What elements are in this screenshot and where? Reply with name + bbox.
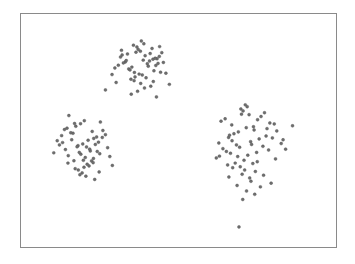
scatter-points-layer [21,14,336,247]
data-point [52,151,55,154]
data-point [284,148,287,151]
data-point [91,130,94,133]
data-point [291,124,294,127]
data-point [111,73,114,76]
data-point [152,69,155,72]
data-point [243,169,246,172]
data-point [246,105,249,108]
data-point [81,143,84,146]
data-point [92,161,95,164]
plot-frame [20,13,337,248]
data-point [76,145,79,148]
data-point [83,166,86,169]
data-point [72,159,75,162]
data-point [69,131,72,134]
data-point [268,122,271,125]
data-point [237,225,240,228]
data-point [259,185,262,188]
data-point [65,127,68,130]
data-point [136,90,139,93]
data-point [231,139,234,142]
data-point [245,126,248,129]
data-point [104,133,107,136]
data-point [261,145,264,148]
data-point [85,146,88,149]
data-point [66,162,69,165]
data-point [122,61,125,64]
data-point [101,129,104,132]
data-point [111,164,114,167]
data-point [145,76,148,79]
data-point [139,82,142,85]
data-point [162,61,165,64]
data-point [250,143,253,146]
data-point [226,163,229,166]
data-point [97,141,100,144]
data-point [84,175,87,178]
data-point [135,46,138,49]
data-point [134,51,137,54]
data-point [248,113,251,116]
data-point [236,184,239,187]
data-point [106,146,109,149]
data-point [249,140,252,143]
data-point [142,59,145,62]
data-point [234,162,237,165]
data-point [254,170,257,173]
data-point [260,115,263,118]
data-point [230,123,233,126]
data-point [245,190,248,193]
data-point [79,122,82,125]
data-point [134,75,137,78]
data-point [236,155,239,158]
data-point [255,151,258,154]
points-group [52,40,294,229]
data-point [126,53,129,56]
data-point [130,93,133,96]
data-point [242,109,245,112]
data-point [240,113,243,116]
data-point [70,138,73,141]
data-point [64,148,67,151]
data-point [78,151,81,154]
data-point [140,40,143,43]
data-point [159,71,162,74]
data-point [241,198,244,201]
data-point [77,169,80,172]
data-point [157,62,160,65]
data-point [141,74,144,77]
data-point [262,174,265,177]
data-point [129,78,132,81]
data-point [143,87,146,90]
data-point [243,159,246,162]
data-point [82,159,85,162]
data-point [148,60,151,63]
data-point [273,122,276,125]
data-point [248,177,251,180]
data-point [87,139,90,142]
data-point [133,79,136,82]
data-point [142,42,145,45]
data-point [160,51,163,54]
data-point [228,134,231,137]
data-point [125,59,128,62]
data-point [256,160,259,163]
data-point [147,65,150,68]
data-point [128,68,131,71]
data-point [270,182,273,185]
data-point [96,150,99,153]
data-point [83,119,86,122]
data-point [218,155,221,158]
data-point [241,173,244,176]
data-point [151,47,154,50]
data-point [101,136,104,139]
data-point [144,54,147,57]
data-point [225,150,228,153]
data-point [60,134,63,137]
data-point [280,142,283,145]
data-point [152,80,155,83]
data-point [94,143,97,146]
data-point [229,152,232,155]
scatter-plot-figure [0,0,355,264]
data-point [117,64,120,67]
